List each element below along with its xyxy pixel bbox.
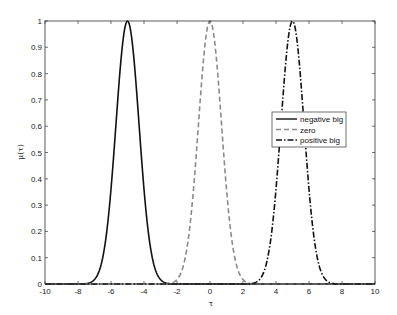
legend-label-positive-big: positive big xyxy=(300,136,340,145)
membership-function-chart: -10-8-6-4-2024681000.10.20.30.40.50.60.7… xyxy=(0,0,397,315)
x-tick-label: -8 xyxy=(74,287,82,296)
y-tick-label: 0.8 xyxy=(31,70,43,79)
legend-label-zero: zero xyxy=(300,126,316,135)
y-tick-label: 0 xyxy=(38,280,43,289)
y-tick-label: 0.3 xyxy=(31,201,43,210)
plot-background xyxy=(45,21,375,284)
x-tick-label: -2 xyxy=(173,287,181,296)
x-tick-label: 0 xyxy=(208,287,213,296)
x-axis-label: τ xyxy=(209,299,214,308)
y-tick-label: 0.9 xyxy=(31,43,43,52)
y-tick-label: 0.7 xyxy=(31,96,43,105)
legend-label-negative-big: negative big xyxy=(300,115,343,124)
plot-area xyxy=(45,21,375,284)
x-tick-label: 6 xyxy=(307,287,312,296)
chart-canvas: -10-8-6-4-2024681000.10.20.30.40.50.60.7… xyxy=(0,0,397,315)
y-tick-label: 0.2 xyxy=(31,227,43,236)
y-axis-label: μ(τ) xyxy=(16,144,25,160)
legend: negative bigzeropositive big xyxy=(272,112,346,147)
x-tick-label: 8 xyxy=(340,287,345,296)
y-tick-label: 1 xyxy=(38,17,43,26)
y-tick-label: 0.4 xyxy=(31,175,43,184)
x-tick-label: 2 xyxy=(241,287,246,296)
y-tick-label: 0.6 xyxy=(31,122,43,131)
x-tick-label: 10 xyxy=(371,287,380,296)
x-tick-label: -6 xyxy=(107,287,115,296)
x-tick-label: -4 xyxy=(140,287,148,296)
y-tick-label: 0.5 xyxy=(31,149,43,158)
x-tick-label: 4 xyxy=(274,287,279,296)
y-tick-label: 0.1 xyxy=(31,254,43,263)
